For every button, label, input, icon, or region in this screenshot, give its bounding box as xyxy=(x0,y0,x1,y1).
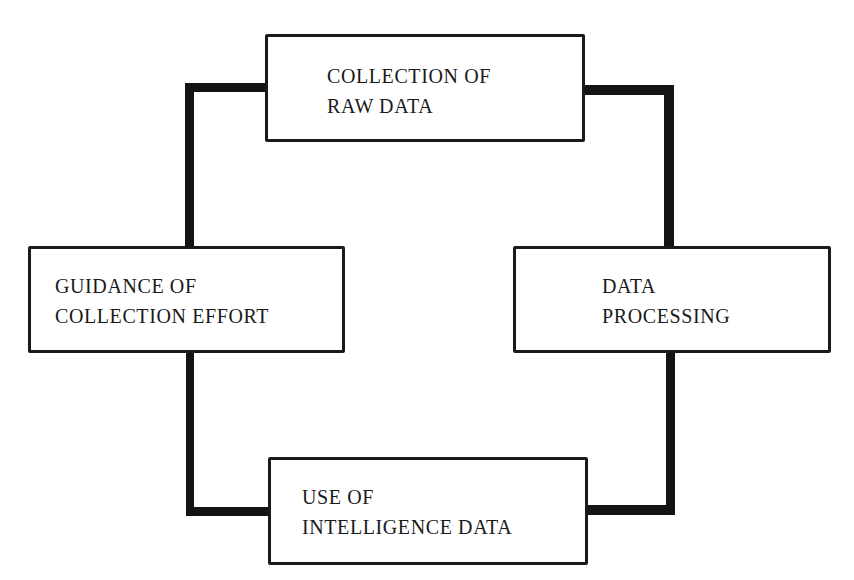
node-collection-of-raw-data: COLLECTION OF RAW DATA xyxy=(265,34,585,142)
node-label-line2: COLLECTION EFFORT xyxy=(55,301,269,331)
connector-processing-to-use-horizontal xyxy=(584,505,675,515)
connector-collection-to-processing-vertical xyxy=(664,85,674,249)
node-label: COLLECTION OF RAW DATA xyxy=(327,61,491,121)
node-data-processing: DATA PROCESSING xyxy=(513,246,831,353)
node-use-of-intelligence-data: USE OF INTELLIGENCE DATA xyxy=(268,457,588,565)
connector-guidance-to-collection-horizontal xyxy=(185,83,269,92)
node-label-line1: USE OF xyxy=(302,482,512,512)
node-label: GUIDANCE OF COLLECTION EFFORT xyxy=(55,271,269,331)
connector-guidance-to-collection-vertical xyxy=(185,83,194,249)
connector-collection-to-processing-horizontal xyxy=(581,85,674,95)
node-label-line1: GUIDANCE OF xyxy=(55,271,269,301)
connector-use-to-guidance-vertical xyxy=(186,350,194,516)
node-label-line1: DATA xyxy=(602,271,730,301)
node-label-line1: COLLECTION OF xyxy=(327,61,491,91)
node-label: DATA PROCESSING xyxy=(602,271,730,331)
node-label-line2: RAW DATA xyxy=(327,91,491,121)
node-guidance-of-collection-effort: GUIDANCE OF COLLECTION EFFORT xyxy=(28,246,345,353)
node-label: USE OF INTELLIGENCE DATA xyxy=(302,482,512,542)
node-label-line2: PROCESSING xyxy=(602,301,730,331)
connector-processing-to-use-vertical xyxy=(666,350,675,515)
connector-use-to-guidance-horizontal xyxy=(186,507,271,516)
node-label-line2: INTELLIGENCE DATA xyxy=(302,512,512,542)
